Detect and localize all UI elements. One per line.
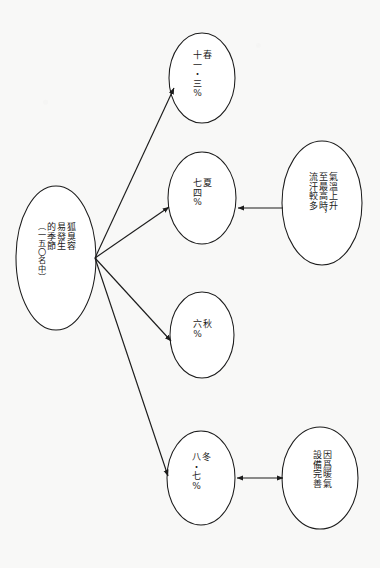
summer-ellipse xyxy=(168,152,236,244)
autumn-ellipse xyxy=(170,292,234,378)
edge-root-to-summer xyxy=(95,207,169,258)
edge-root-to-autumn xyxy=(95,258,171,341)
winter-ellipse xyxy=(167,431,235,525)
diagram-graphics xyxy=(0,0,380,568)
edge-root-to-winter xyxy=(95,258,168,476)
edge-root-to-spring xyxy=(95,88,174,258)
root-ellipse xyxy=(16,186,96,330)
diagram-canvas: 狐臭容 易發生 的季節 （一五〇名中） 春 十一・三% 夏 七四% 秋 六% 冬… xyxy=(0,0,380,568)
summer-note-ellipse xyxy=(282,141,362,265)
winter-note-ellipse xyxy=(282,427,358,529)
spring-ellipse xyxy=(169,33,235,123)
